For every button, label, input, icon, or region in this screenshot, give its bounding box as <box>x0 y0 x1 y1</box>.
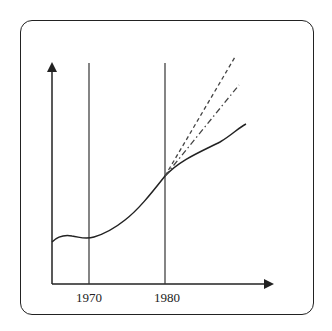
projection-dash-dot <box>165 85 239 176</box>
historical-curve <box>52 124 246 242</box>
line-diagram: 1970 1980 <box>0 0 332 331</box>
tick-label-1970: 1970 <box>76 290 102 305</box>
tick-label-1980: 1980 <box>154 290 180 305</box>
projection-dashed <box>165 57 235 176</box>
